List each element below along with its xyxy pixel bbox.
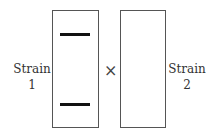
strain-1-label: Strain 1 [10,61,54,93]
strain-2-box [120,10,166,128]
cross-symbol: × [104,63,117,79]
strain-2-label-line2: 2 [166,77,208,93]
strain-1-band-bottom [60,103,90,106]
strain-2-label: Strain 2 [166,61,208,93]
strain-1-box [52,10,99,128]
strain-1-label-line2: 1 [10,77,54,93]
strain-2-label-line1: Strain [166,61,208,77]
strain-1-label-line1: Strain [10,61,54,77]
strain-1-band-top [60,33,90,36]
